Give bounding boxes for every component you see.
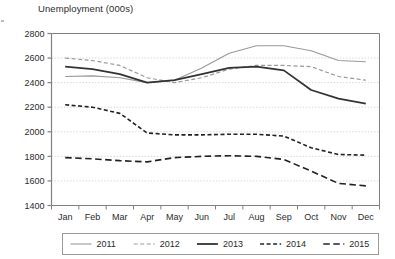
y-tick-label: 1600 xyxy=(24,176,44,186)
x-tick-label: Feb xyxy=(85,212,101,222)
legend-label-2014: 2014 xyxy=(286,239,306,249)
y-tick-label: 2600 xyxy=(24,53,44,63)
x-tick-label: Mar xyxy=(112,212,128,222)
y-tick-label: 1400 xyxy=(24,201,44,211)
x-axis-ticks: JanFebMarAprMayJunJulAugSepOctNovDec xyxy=(52,206,380,222)
x-tick-label: Aug xyxy=(248,212,264,222)
chart-legend: 20112012201320142015 xyxy=(63,234,379,255)
y-tick-label: 2200 xyxy=(24,102,44,112)
series-line-2013 xyxy=(65,67,366,104)
x-tick-label: May xyxy=(166,212,184,222)
y-tick-label: 2800 xyxy=(24,29,44,39)
legend-label-2012: 2012 xyxy=(160,239,180,249)
x-tick-label: Jan xyxy=(58,212,73,222)
x-tick-label: Dec xyxy=(358,212,375,222)
series-line-2014 xyxy=(65,105,366,155)
y-axis-ticks: 28002600240022002000180016001400 xyxy=(24,29,51,211)
legend-label-2015: 2015 xyxy=(349,239,369,249)
x-tick-label: Oct xyxy=(304,212,319,222)
x-tick-label: Jul xyxy=(223,212,235,222)
x-tick-label: Nov xyxy=(330,212,347,222)
legend-label-2013: 2013 xyxy=(223,239,243,249)
x-tick-label: Sep xyxy=(276,212,292,222)
legend-label-2011: 2011 xyxy=(97,239,116,249)
chart-canvas: 28002600240022002000180016001400 JanFebM… xyxy=(0,0,395,259)
y-tick-label: 1800 xyxy=(24,152,44,162)
data-series-group xyxy=(65,46,366,186)
y-tick-label: 2400 xyxy=(24,78,44,88)
y-tick-label: 2000 xyxy=(24,127,44,137)
series-line-2015 xyxy=(65,156,366,186)
unemployment-line-chart: Unemployment (000s) 28002600240022002000… xyxy=(0,0,395,259)
x-tick-label: Jun xyxy=(195,212,210,222)
x-tick-label: Apr xyxy=(140,212,154,222)
